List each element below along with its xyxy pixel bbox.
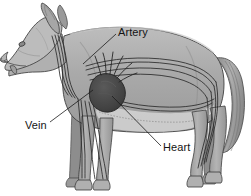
- label-artery: Artery: [118, 26, 148, 38]
- anatomical-diagram-figure: Artery Vein Heart: [0, 0, 251, 196]
- head: [0, 3, 67, 76]
- label-vein: Vein: [25, 119, 47, 131]
- label-heart: Heart: [163, 141, 190, 153]
